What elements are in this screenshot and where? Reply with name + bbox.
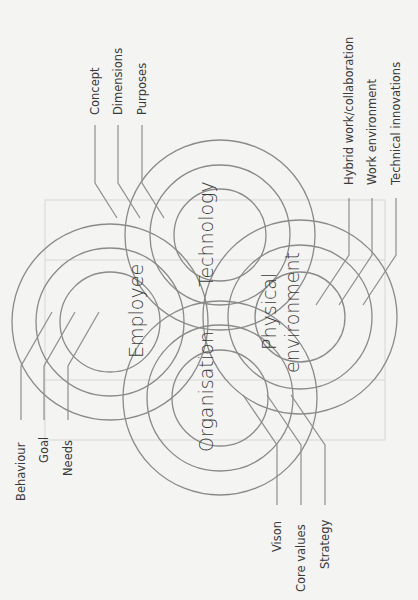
aspect-label-goal: Goal — [37, 437, 51, 463]
aspect-label-purposes: Purposes — [135, 63, 149, 115]
employee-label: Employee — [125, 264, 147, 358]
aspect-label-behaviour: Behaviour — [14, 442, 28, 501]
aspect-label-technical-innovations: Technical innovations — [389, 62, 403, 186]
physical-environment-leader-lines — [316, 198, 396, 305]
aspect-label-strategy: Strategy — [318, 520, 332, 569]
aspect-label-core-values: Core values — [294, 524, 308, 592]
aspect-label-needs: Needs — [61, 440, 75, 476]
aspect-label-vison: Vison — [270, 521, 284, 552]
aspect-label-work-environment: Work environment — [365, 78, 379, 185]
aspect-label-hybrid-work: Hybrid work/collaboration — [342, 37, 356, 185]
technology-label: Technology — [195, 181, 217, 287]
organisation-label: Organisation — [195, 331, 217, 452]
physical-environment-label-line1: Physical — [258, 273, 280, 350]
four-circles-diagram: Employee Technology Organisation Physica… — [0, 0, 418, 600]
physical-environment-label-line2: environment — [281, 252, 303, 373]
aspect-label-concept: Concept — [88, 67, 102, 115]
employee-rings — [12, 224, 208, 420]
aspect-label-dimensions: Dimensions — [111, 48, 125, 115]
